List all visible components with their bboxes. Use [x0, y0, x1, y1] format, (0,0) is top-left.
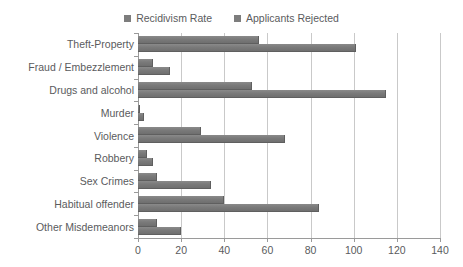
bar[interactable]: [138, 127, 201, 135]
plot-area: [138, 33, 440, 238]
legend-entry-applicants-rejected[interactable]: Applicants Rejected: [234, 13, 339, 24]
category-label: Sex Crimes: [4, 175, 134, 187]
category-tick: [134, 33, 138, 34]
category-tick: [134, 124, 138, 125]
tick-label: 100: [345, 244, 363, 256]
category-label: Fraud / Embezzlement: [4, 61, 134, 73]
bar[interactable]: [138, 181, 211, 189]
tick-mark: [224, 238, 225, 242]
bar[interactable]: [138, 59, 153, 67]
category-label: Murder: [4, 107, 134, 119]
legend-label: Recidivism Rate: [136, 13, 212, 24]
category-tick: [134, 147, 138, 148]
category-label: Theft-Property: [4, 38, 134, 50]
category-tick: [134, 238, 138, 239]
bar-group: [138, 101, 440, 124]
tick-label: 140: [431, 244, 449, 256]
bar[interactable]: [138, 113, 144, 121]
bar-group: [138, 79, 440, 102]
value-axis-tick-labels: 020406080100120140: [0, 244, 463, 260]
tick-mark: [267, 238, 268, 242]
category-tick: [134, 79, 138, 80]
bar-group: [138, 56, 440, 79]
bar[interactable]: [138, 90, 386, 98]
bar[interactable]: [138, 36, 259, 44]
bar[interactable]: [138, 219, 157, 227]
tick-mark: [311, 238, 312, 242]
category-tick: [134, 215, 138, 216]
value-axis-baseline: [138, 238, 441, 239]
bar-chart: Recidivism Rate Applicants Rejected Thef…: [0, 0, 463, 267]
tick-mark: [354, 238, 355, 242]
bar-group: [138, 124, 440, 147]
bar[interactable]: [138, 173, 157, 181]
category-label: Robbery: [4, 152, 134, 164]
legend-label: Applicants Rejected: [246, 13, 339, 24]
tick-label: 80: [305, 244, 317, 256]
tick-label: 0: [135, 244, 141, 256]
tick-label: 60: [262, 244, 274, 256]
category-label: Habitual offender: [4, 198, 134, 210]
category-tick: [134, 56, 138, 57]
bar[interactable]: [138, 227, 181, 235]
bar-group: [138, 192, 440, 215]
tick-label: 40: [218, 244, 230, 256]
bar[interactable]: [138, 44, 356, 52]
category-label: Violence: [4, 130, 134, 142]
bar[interactable]: [138, 82, 252, 90]
bar-group: [138, 170, 440, 193]
tick-mark: [181, 238, 182, 242]
legend-swatch-icon: [234, 15, 241, 22]
bar[interactable]: [138, 135, 285, 143]
tick-mark: [138, 238, 139, 242]
chart-legend: Recidivism Rate Applicants Rejected: [0, 8, 463, 28]
tick-mark: [397, 238, 398, 242]
bar[interactable]: [138, 196, 224, 204]
bar-group: [138, 147, 440, 170]
bar-group: [138, 33, 440, 56]
tick-mark: [440, 238, 441, 242]
category-label: Other Misdemeanors: [4, 221, 134, 233]
bar[interactable]: [138, 150, 147, 158]
category-tick: [134, 170, 138, 171]
bar[interactable]: [138, 105, 140, 113]
bar[interactable]: [138, 67, 170, 75]
category-axis-labels: Theft-PropertyFraud / EmbezzlementDrugs …: [0, 33, 134, 238]
tick-label: 20: [175, 244, 187, 256]
category-label: Drugs and alcohol: [4, 84, 134, 96]
bar[interactable]: [138, 158, 153, 166]
bar[interactable]: [138, 204, 319, 212]
bar-group: [138, 215, 440, 238]
tick-label: 120: [388, 244, 406, 256]
legend-entry-recidivism-rate[interactable]: Recidivism Rate: [124, 13, 212, 24]
category-tick: [134, 101, 138, 102]
category-tick: [134, 192, 138, 193]
legend-swatch-icon: [124, 15, 131, 22]
gridline: [440, 33, 441, 238]
